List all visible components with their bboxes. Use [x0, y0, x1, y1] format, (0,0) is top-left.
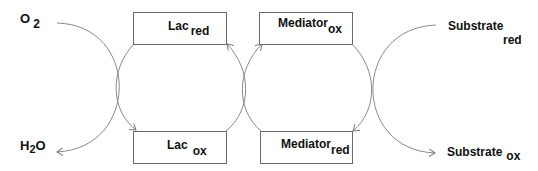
lac-ox-sub: ox — [193, 144, 207, 158]
substrate-ox-label: Substrateox — [447, 146, 520, 158]
substrate-red-label: Substrate — [448, 20, 503, 32]
substrate-red-sub: red — [503, 34, 522, 46]
h2o-label: H2O — [20, 139, 46, 152]
o2-sub: 2 — [33, 17, 40, 31]
lac-red-label: Lacred — [168, 20, 209, 32]
lac-ox-main: Lac — [167, 138, 188, 152]
h2o-h: H — [20, 138, 29, 153]
lac-red-sub: red — [191, 24, 210, 38]
mediator-ox-sub: ox — [328, 22, 342, 36]
substrate-ox-main: Substrate — [447, 145, 502, 159]
lac-ox-label: Lacox — [167, 139, 207, 151]
lac-red-main: Lac — [168, 19, 189, 33]
h2o-sub: 2 — [29, 143, 35, 155]
mediator-ox-to-mediator-red-arrow — [352, 44, 372, 131]
o2-to-h2o-arrow — [57, 23, 119, 152]
o2-main: O — [20, 11, 30, 26]
mediator-red-label: Mediatorred — [281, 138, 350, 150]
mediator-red-sub: red — [331, 143, 350, 157]
h2o-o: O — [36, 138, 46, 153]
mediator-ox-label: Mediatorox — [278, 17, 342, 29]
mediator-red-main: Mediator — [281, 137, 331, 151]
substrate-red-to-substrate-ox-arrow — [373, 25, 436, 153]
substrate-red-main: Substrate — [448, 19, 503, 33]
o2-label: O2 — [20, 12, 40, 25]
mediator-ox-main: Mediator — [278, 16, 328, 30]
substrate-ox-sub: ox — [506, 149, 520, 163]
